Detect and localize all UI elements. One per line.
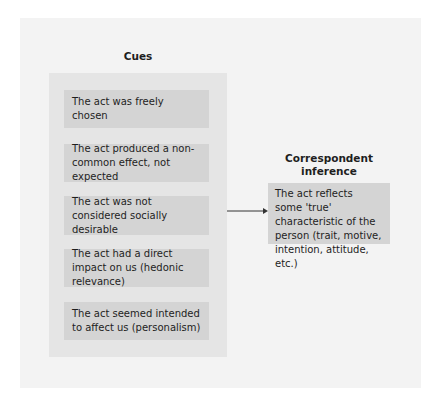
cue-box: The act was not considered socially desi… bbox=[64, 196, 209, 235]
cue-box: The act was freely chosen bbox=[64, 90, 209, 128]
arrow-right-icon bbox=[227, 206, 269, 216]
cues-heading: Cues bbox=[49, 50, 227, 62]
inference-box: The act reflects some 'true' characteris… bbox=[268, 183, 390, 244]
cue-box: The act produced a non-common effect, no… bbox=[64, 144, 209, 182]
cue-box: The act had a direct impact on us (hedon… bbox=[64, 249, 209, 287]
inference-heading: Correspondent inference bbox=[266, 152, 392, 178]
cue-box: The act seemed intended to affect us (pe… bbox=[64, 302, 209, 340]
